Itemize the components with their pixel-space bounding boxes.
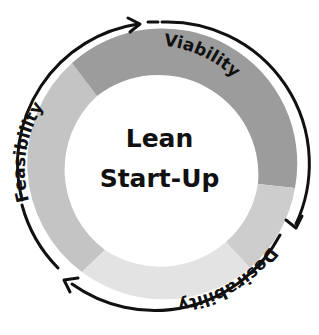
arrow-right-head bbox=[286, 216, 302, 228]
center-title-line2: Start-Up bbox=[0, 160, 319, 198]
center-title-line1: Lean bbox=[0, 120, 319, 158]
